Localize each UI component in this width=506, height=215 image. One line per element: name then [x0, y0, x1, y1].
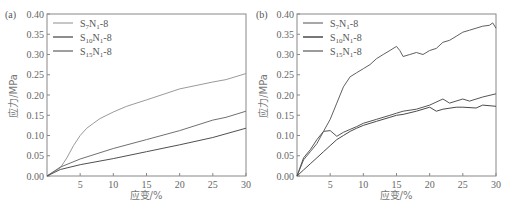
- series-line-s10n1-8: [47, 111, 246, 176]
- panel-a-series-lines: [47, 74, 246, 177]
- y-tick-label: 0.35: [277, 29, 295, 40]
- y-tick-label: 0.00: [27, 171, 45, 182]
- legend-label: S10N1-8: [330, 32, 362, 45]
- chart-figure: (a) 0.000.050.100.150.200.250.300.350.40…: [0, 0, 506, 215]
- legend-label: S7N1-8: [80, 18, 108, 31]
- y-tick-label: 0.00: [277, 171, 295, 182]
- series-line-s7n1-8: [297, 23, 496, 176]
- x-tick-label: 15: [392, 179, 402, 190]
- panel-b-label: (b): [256, 9, 268, 21]
- y-tick-label: 0.10: [277, 130, 295, 141]
- panel-a-label: (a): [5, 9, 16, 21]
- legend-label: S10N1-8: [80, 32, 112, 45]
- legend-label: S15N1-8: [330, 46, 362, 59]
- x-tick-label: 15: [142, 179, 152, 190]
- legend-label: S15N1-8: [80, 46, 112, 59]
- panel-a-x-axis-title: 应变/%: [130, 189, 163, 201]
- y-tick-label: 0.05: [27, 150, 45, 161]
- y-tick-label: 0.40: [277, 9, 295, 20]
- x-tick-label: 25: [458, 179, 468, 190]
- panel-a-y-axis-title: 应力/MPa: [7, 74, 19, 118]
- y-tick-label: 0.35: [27, 29, 45, 40]
- y-tick-label: 0.20: [277, 90, 295, 101]
- x-tick-label: 20: [425, 179, 435, 190]
- panel-b-y-axis: 0.000.050.100.150.200.250.300.350.40: [277, 9, 301, 182]
- panel-a-y-axis: 0.000.050.100.150.200.250.300.350.40: [27, 9, 51, 182]
- panel-b-plot-frame: [297, 14, 496, 176]
- panel-b-legend: S7N1-8S10N1-8S15N1-8: [303, 18, 362, 59]
- x-tick-label: 10: [108, 179, 118, 190]
- y-tick-label: 0.25: [27, 69, 45, 80]
- y-tick-label: 0.40: [27, 9, 45, 20]
- x-tick-label: 5: [78, 179, 83, 190]
- x-tick-label: 30: [241, 179, 251, 190]
- y-tick-label: 0.25: [277, 69, 295, 80]
- x-tick-label: 5: [328, 179, 333, 190]
- series-line-s15n1-8: [47, 128, 246, 176]
- legend-label: S7N1-8: [330, 18, 358, 31]
- series-line-s15n1-8: [297, 105, 496, 176]
- x-tick-label: 10: [358, 179, 368, 190]
- x-tick-label: 20: [175, 179, 185, 190]
- y-tick-label: 0.20: [27, 90, 45, 101]
- x-tick-label: 30: [491, 179, 501, 190]
- x-tick-label: 25: [208, 179, 218, 190]
- panel-b-x-axis-title: 应变/%: [380, 189, 413, 201]
- y-tick-label: 0.30: [277, 49, 295, 60]
- panel-a-legend: S7N1-8S10N1-8S15N1-8: [53, 18, 112, 59]
- y-tick-label: 0.10: [27, 130, 45, 141]
- panel-b-stress-strain-chart: (b) 0.000.050.100.150.200.250.300.350.40…: [256, 9, 501, 202]
- y-tick-label: 0.30: [27, 49, 45, 60]
- y-tick-label: 0.15: [277, 110, 295, 121]
- panel-a-stress-strain-chart: (a) 0.000.050.100.150.200.250.300.350.40…: [5, 9, 251, 202]
- series-line-s10n1-8: [297, 94, 496, 176]
- y-tick-label: 0.05: [277, 150, 295, 161]
- panel-b-series-lines: [297, 23, 496, 176]
- panel-b-y-axis-title: 应力/MPa: [257, 74, 269, 118]
- y-tick-label: 0.15: [27, 110, 45, 121]
